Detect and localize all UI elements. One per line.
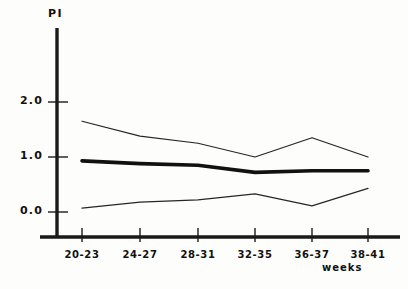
x-tick-label-2: 28-31 (170, 249, 226, 260)
x-axis-label: weeks (322, 262, 362, 273)
x-tick-label-5: 38-41 (340, 249, 396, 260)
series-line-lower-percentile (82, 188, 368, 208)
x-tick-label-1: 24-27 (112, 249, 168, 260)
x-tick-label-4: 36-37 (284, 249, 340, 260)
y-axis-label: PI (48, 7, 63, 20)
series-line-median (82, 161, 368, 173)
data-series (82, 121, 368, 208)
y-tick-label-2: 2.0 (9, 94, 43, 107)
plot-area (0, 0, 408, 289)
axes (40, 28, 400, 237)
x-tick-label-0: 20-23 (54, 249, 110, 260)
series-line-upper-percentile (82, 121, 368, 157)
pi-versus-weeks-line-chart: PI weeks 0.01.02.0 20-2324-2728-3132-353… (0, 0, 408, 289)
y-tick-label-1: 1.0 (9, 149, 43, 162)
x-tick-label-3: 32-35 (227, 249, 283, 260)
y-tick-label-0: 0.0 (9, 204, 43, 217)
